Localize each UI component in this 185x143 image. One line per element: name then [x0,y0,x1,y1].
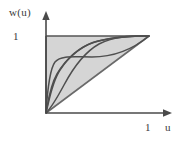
weighting-function-figure: w(u) 1 1 u [0,0,185,143]
plot-area [0,0,185,143]
x-axis-tick-label-1: 1 [145,122,151,133]
y-axis-label: w(u) [9,7,31,18]
arrow-right-icon [163,109,172,116]
arrow-up-icon [42,11,49,20]
x-axis-label: u [165,122,171,133]
y-axis-tick-label-1: 1 [13,31,19,42]
